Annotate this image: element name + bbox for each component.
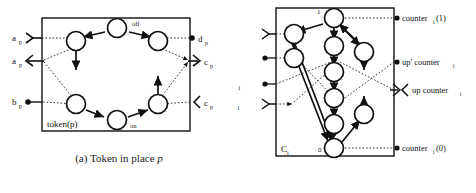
place-bottom-zero — [325, 139, 344, 158]
port-reset-counter-i-in: reset counter i — [238, 29, 276, 41]
port-counter-i-1-sub: i — [433, 19, 435, 25]
port-a-p-out: a p — [12, 55, 44, 68]
place-upper-left — [67, 32, 86, 51]
port-d-p-dot — [189, 35, 195, 41]
figure-pair-container: off on token(p) a p a p b p — [0, 0, 476, 193]
place-mid-4 — [325, 115, 344, 134]
port-up-counter-i1-dot: up counter i+1 — [238, 79, 276, 91]
port-counter-i-0-dot — [394, 145, 399, 150]
port-up-prime-counter-i-dot — [394, 59, 399, 64]
port-c-p-in: c p — [194, 96, 213, 110]
place-mid-3 — [325, 89, 344, 108]
port-up-prime-counter-i-label: up' counter — [402, 57, 440, 67]
port-up-prime-counter-i: up' counter i — [394, 57, 455, 69]
port-d-p-label: d — [198, 34, 203, 44]
port-d-p: d p — [189, 34, 208, 46]
place-top-one — [325, 9, 344, 28]
figure-a-caption: (a) Token in place p — [0, 152, 238, 164]
place-top-off — [108, 19, 127, 38]
port-counter-i-0-label: counter — [402, 143, 428, 153]
figure-a: off on token(p) a p a p b p — [0, 0, 238, 193]
port-b-p-sub: p — [19, 103, 22, 109]
place-mid-2 — [325, 63, 344, 82]
figure-a-caption-italic: p — [157, 152, 163, 164]
port-up-prime-counter-i-sub: i — [453, 63, 455, 69]
place-label-off: off — [132, 20, 140, 27]
place-left-upper — [285, 25, 304, 44]
port-up-prime-counter-i1: up' counter i+1 — [238, 99, 276, 111]
place-lower-left — [67, 95, 86, 114]
place-bottom-on — [108, 111, 127, 130]
figure-a-caption-prefix: (a) — [75, 152, 87, 164]
place-label-on: on — [130, 122, 137, 129]
port-up-prime-counter-i1-sub: i+1 — [238, 105, 240, 111]
module-box-label-token: token(p) — [47, 119, 78, 129]
place-lower-right — [149, 95, 168, 114]
port-a-p-out-sub: p — [19, 62, 22, 68]
figure-b: 1 0 C i reset counter i reset counter i … — [238, 0, 476, 193]
port-up-counter-i: up counter i — [390, 84, 462, 97]
port-a-p-in-sub: p — [19, 39, 22, 45]
port-up-counter-i-label: up counter — [412, 85, 448, 95]
port-c-p-out: c p — [188, 55, 213, 69]
place-right-upper — [355, 43, 374, 62]
port-up-counter-i-sub: i — [460, 91, 462, 97]
port-counter-i-0-sub: i — [433, 149, 435, 155]
port-counter-i-1-dot — [394, 15, 399, 20]
figure-a-caption-text: Token in place — [90, 152, 155, 164]
port-c-p-out-label: c — [204, 57, 208, 67]
port-counter-i-1: counter i (1) — [394, 13, 446, 25]
port-counter-i-1-label: counter — [402, 13, 428, 23]
place-upper-right — [149, 32, 168, 51]
place-right-lower — [355, 105, 374, 124]
figure-b-diagram: 1 0 C i reset counter i reset counter i … — [238, 0, 476, 170]
port-a-p-in: a p — [12, 33, 42, 45]
place-left-lower — [285, 49, 304, 68]
port-d-p-sub: p — [205, 40, 208, 46]
port-c-p-in-label: c — [204, 98, 208, 108]
port-reset-counter-i-dot: reset counter i — [238, 53, 276, 65]
port-c-p-in-sub: p — [210, 104, 213, 110]
port-a-p-out-label: a — [12, 56, 16, 66]
port-up-counter-i1-dot-sub: i+1 — [238, 85, 241, 91]
port-counter-i-1-suffix: (1) — [436, 13, 446, 23]
port-counter-i-0: counter i (0) — [394, 143, 446, 155]
port-b-p-label: b — [12, 97, 17, 107]
place-label-zero: 0 — [318, 146, 322, 154]
place-label-one: 1 — [317, 8, 321, 16]
port-b-p: b p — [12, 97, 42, 109]
port-counter-i-0-suffix: (0) — [436, 143, 446, 153]
figure-a-diagram: off on token(p) a p a p b p — [0, 0, 238, 152]
port-a-p-in-label: a — [12, 33, 16, 43]
port-c-p-out-sub: p — [210, 63, 213, 69]
place-mid-1 — [325, 37, 344, 56]
